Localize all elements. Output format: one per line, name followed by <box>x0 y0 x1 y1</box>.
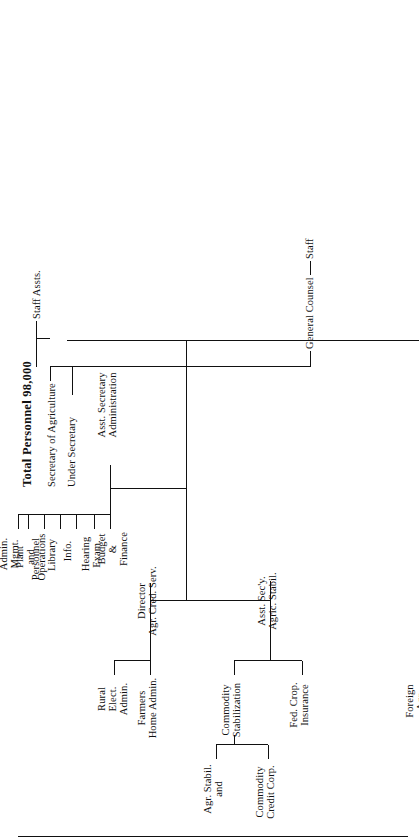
connector-general-counsel-arm <box>310 351 311 367</box>
node-admin-unit-info: Info. <box>62 529 73 573</box>
connector-staff-arm <box>36 339 37 367</box>
connector-agr-credit-unit-0 <box>150 661 151 675</box>
node-admin-unit-library: Library <box>46 529 57 581</box>
connector-admin-unit-2 <box>76 515 77 529</box>
node-admin-unit-admin-mgmt: Admin. Mgmt. <box>0 529 20 579</box>
node-foreign-agr-service: Foreign Agr. Service <box>404 675 419 727</box>
node-fed-crop-insurance: Fed. Crop. Insurance <box>288 675 310 735</box>
node-asst-secy-agric-stabil: Asst. Sec'y. Agric. Stabil. <box>256 541 278 661</box>
connector-admin-unit-3 <box>60 515 61 529</box>
page-title: Total Personnel 98,000 <box>20 361 35 487</box>
distribution-bar-agric-stabil <box>234 660 302 661</box>
node-asst-secretary-administration: Asst. Secretary Administration <box>96 345 118 465</box>
connector-admin-unit-1 <box>94 515 95 529</box>
connector-agr-credit-to-bar <box>186 341 187 601</box>
connector-admin-unit-6 <box>18 515 19 529</box>
distribution-bar-agr-credit <box>114 660 150 661</box>
node-general-counsel-staff: Staff <box>304 209 315 259</box>
connector-admin-to-spine <box>110 488 186 489</box>
connector-staff-bracket <box>50 366 72 367</box>
connector-agric-stabil-unit-0 <box>302 661 303 675</box>
connector-general-counsel-staff <box>310 261 311 275</box>
node-secretary-of-agriculture: Secretary of Agriculture <box>46 367 57 487</box>
org-chart-stage: Total Personnel 98,000 Secretary of Agri… <box>0 0 419 837</box>
connector-admin-stub <box>110 465 111 489</box>
connector-commodity-child-1 <box>216 745 217 759</box>
connector-staff-riser <box>36 338 50 339</box>
connector-agric-stabil-barlink <box>270 601 271 661</box>
connector-commodity-child-0 <box>268 745 269 759</box>
node-staff-assts: Staff Assts. <box>31 229 42 319</box>
connector-agric-stabil-unit-1 <box>234 661 235 675</box>
node-farmers-home-admin: Farmers Home Admin. <box>136 675 158 741</box>
distribution-bar-commodity <box>216 744 268 745</box>
connector-agric-stabil-stub <box>270 581 271 601</box>
connector-under-secretary-stub <box>72 367 73 395</box>
connector-agric-stabil-riser <box>186 600 270 601</box>
connector-commodity-barlink <box>234 735 235 745</box>
node-agr-stabil-and: Agr. Stabil. and <box>202 759 224 819</box>
node-commodity-stabilization: Commodity Stabilization <box>220 675 242 745</box>
distribution-bar-level2 <box>67 340 419 341</box>
connector-admin-unit-0 <box>110 515 111 529</box>
distribution-bar-administration <box>18 514 110 515</box>
connector-admin-barlink <box>110 489 111 515</box>
connector-agr-credit-stub <box>150 583 151 601</box>
node-commodity-credit-corp: Commodity Credit Corp. <box>254 759 276 825</box>
connector-staff-lead <box>36 321 37 339</box>
node-director-agr-cred-serv: Director Agr. Cred. Serv. <box>136 541 158 661</box>
connector-secretary-stub <box>50 367 51 381</box>
connector-admin-unit-5 <box>28 515 29 529</box>
node-rural-elect-admin: Rural Elect. Admin. <box>96 675 130 723</box>
connector-agr-credit-barlink <box>150 601 151 661</box>
connector-admin-unit-4 <box>44 515 45 529</box>
connector-agr-credit-riser <box>150 600 186 601</box>
node-admin-unit-hearing-exam: Hearing Exam. <box>80 529 102 579</box>
connector-agr-credit-unit-1 <box>114 661 115 675</box>
